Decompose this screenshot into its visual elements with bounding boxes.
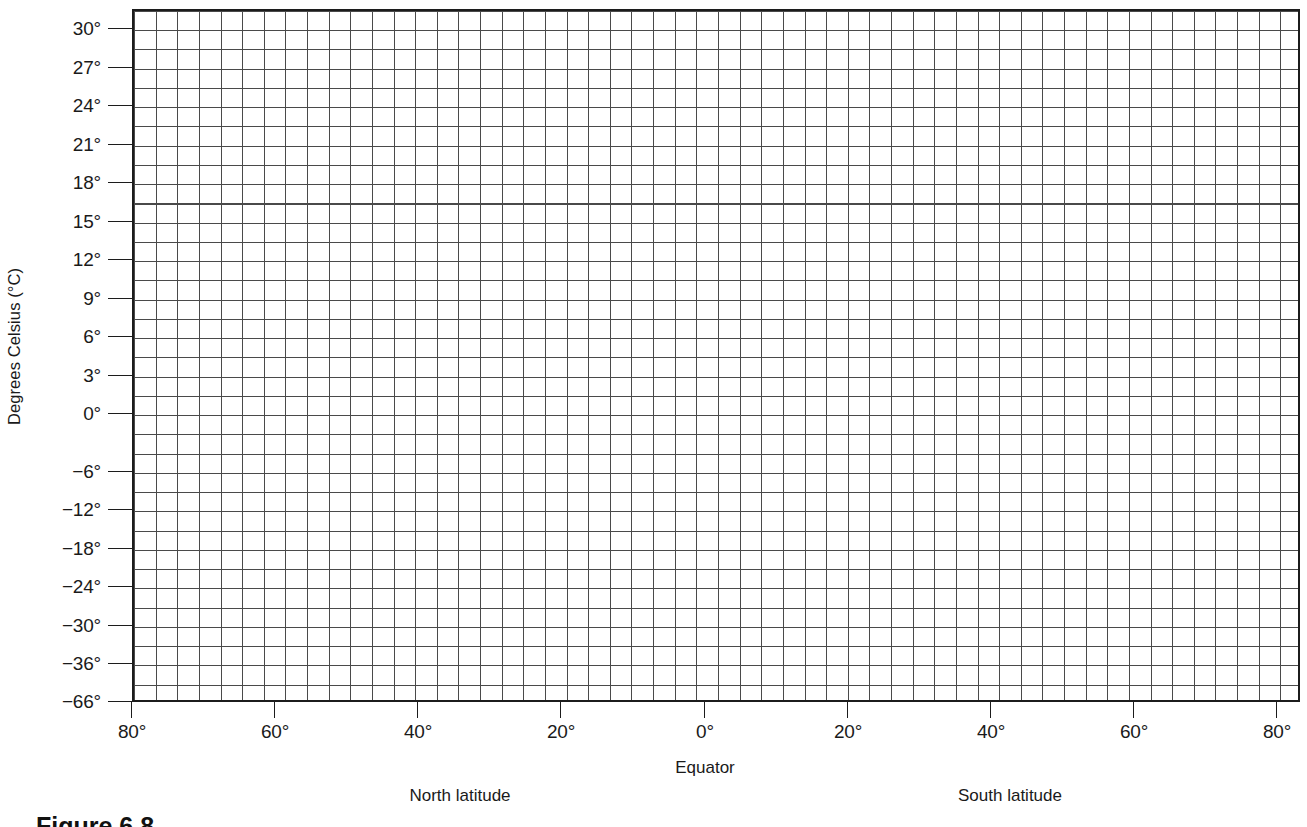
plot-grid-area[interactable] [132, 9, 1300, 702]
x-axis-tick-label: 40° [946, 721, 1036, 743]
y-axis-tick-mark [108, 471, 132, 472]
x-axis-tick-mark [1133, 702, 1134, 718]
x-axis-tick-mark [131, 702, 132, 718]
y-axis-tick-label: −24° [62, 576, 101, 598]
figure-caption: Figure 6.8 [36, 812, 154, 827]
x-axis-tick-label: 80° [1232, 721, 1307, 743]
y-axis-tick-label: −30° [62, 615, 101, 637]
y-axis-tick-label: 24° [73, 95, 101, 117]
y-axis-tick-label: 0° [83, 403, 101, 425]
x-axis-tick-label: 80° [87, 721, 177, 743]
y-axis-tick-label: 18° [73, 172, 101, 194]
y-axis-tick-label: 3° [83, 365, 101, 387]
y-axis-tick-label: −6° [72, 461, 101, 483]
y-axis-tick-label: 12° [73, 249, 101, 271]
y-axis-tick-label: 27° [73, 57, 101, 79]
y-axis-tick-label: 15° [73, 211, 101, 233]
x-axis-tick-label: 60° [230, 721, 320, 743]
y-axis-tick-mark [108, 701, 132, 702]
x-axis-tick-label: 20° [516, 721, 606, 743]
x-axis-tick-label: 20° [803, 721, 893, 743]
x-axis-tick-mark [1276, 702, 1277, 718]
y-axis-tick-mark [108, 105, 132, 106]
y-axis-tick-mark [108, 298, 132, 299]
y-axis-tick-label: −12° [62, 499, 101, 521]
y-axis-tick-mark [108, 336, 132, 337]
x-axis-tick-mark [990, 702, 991, 718]
y-axis-tick-mark [108, 259, 132, 260]
x-axis-tick-mark [704, 702, 705, 718]
y-axis-title-text: Degrees Celsius (°C) [6, 268, 25, 425]
x-axis-tick-mark [274, 702, 275, 718]
x-axis-tick-mark [560, 702, 561, 718]
y-axis-tick-mark [108, 221, 132, 222]
y-axis-tick-label: −66° [62, 691, 101, 713]
y-axis-tick-mark [108, 663, 132, 664]
y-axis-tick-mark [108, 67, 132, 68]
x-axis-tick-label: 0° [660, 721, 750, 743]
y-axis-tick-mark [108, 548, 132, 549]
y-axis-tick-label: 30° [73, 18, 101, 40]
y-axis-tick-mark [108, 509, 132, 510]
y-axis-tick-label: 6° [83, 326, 101, 348]
y-axis-tick-mark [108, 182, 132, 183]
y-axis-tick-label: 21° [73, 134, 101, 156]
x-axis-tick-label: 60° [1089, 721, 1179, 743]
south-latitude-label: South latitude [880, 786, 1140, 806]
equator-label: Equator [605, 758, 805, 778]
y-axis-tick-label: −18° [62, 538, 101, 560]
blank-latitude-temperature-graph: Degrees Celsius (°C) 30°27°24°21°18°15°1… [0, 0, 1307, 827]
x-axis-tick-mark [417, 702, 418, 718]
north-latitude-label: North latitude [330, 786, 590, 806]
y-axis-tick-mark [108, 28, 132, 29]
y-axis-tick-mark [108, 625, 132, 626]
y-axis-tick-mark [108, 144, 132, 145]
x-axis-tick-label: 40° [373, 721, 463, 743]
x-axis-tick-mark [847, 702, 848, 718]
y-axis-tick-mark [108, 586, 132, 587]
y-axis-tick-mark [108, 413, 132, 414]
y-axis-title: Degrees Celsius (°C) [0, 0, 30, 693]
y-axis-tick-mark [108, 375, 132, 376]
y-axis-tick-label: −36° [62, 653, 101, 675]
y-axis-tick-label: 9° [83, 288, 101, 310]
